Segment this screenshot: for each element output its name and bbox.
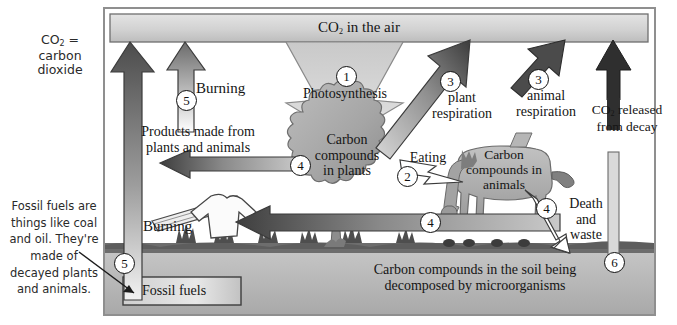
step-number-products: 4 — [290, 155, 311, 176]
step-number-decay: 6 — [604, 252, 625, 273]
fossil-fuels-note: Fossil fuels are things like coal and oi… — [6, 198, 102, 298]
burning-left-label: Burning — [143, 218, 213, 235]
plant-respiration-label: plant respiration — [430, 90, 494, 121]
plants-label: Carbon compounds in plants — [310, 132, 384, 179]
step-number-burning-fossil: 5 — [114, 253, 135, 274]
eating-label: Eating — [402, 150, 454, 166]
step-number-photosynthesis: 1 — [336, 66, 357, 87]
step-number-plant-respiration: 3 — [440, 71, 461, 92]
photosynthesis-label: Photosynthesis — [292, 86, 398, 102]
products-label: Products made from plants and animals — [140, 124, 256, 155]
step-number-animals-to-products: 4 — [420, 212, 441, 233]
step-number-eating: 2 — [397, 166, 418, 187]
animal-respiration-label: animal respiration — [505, 88, 587, 119]
legend-line2: carbon dioxide — [18, 49, 102, 77]
legend-co2: CO2 = carbon dioxide — [18, 33, 102, 77]
decay-label: CO2 released from decay — [582, 102, 672, 134]
animals-label: Carbon compounds in animals — [462, 147, 546, 192]
fossil-fuels-label: Fossil fuels — [142, 283, 228, 299]
atmosphere-label: CO2 in the air — [279, 19, 439, 37]
death-waste-label: Death and waste — [561, 196, 611, 243]
carbon-cycle-diagram: CO2 = carbon dioxide Fossil fuels are th… — [0, 0, 677, 325]
soil-label: Carbon compounds in the soil being decom… — [340, 262, 610, 293]
step-number-burning-top: 5 — [176, 90, 197, 111]
legend-line1: CO2 = — [41, 32, 79, 47]
step-number-death-waste: 4 — [536, 198, 557, 219]
burning-top-label: Burning — [196, 80, 266, 97]
step-number-animal-respiration: 3 — [528, 69, 549, 90]
